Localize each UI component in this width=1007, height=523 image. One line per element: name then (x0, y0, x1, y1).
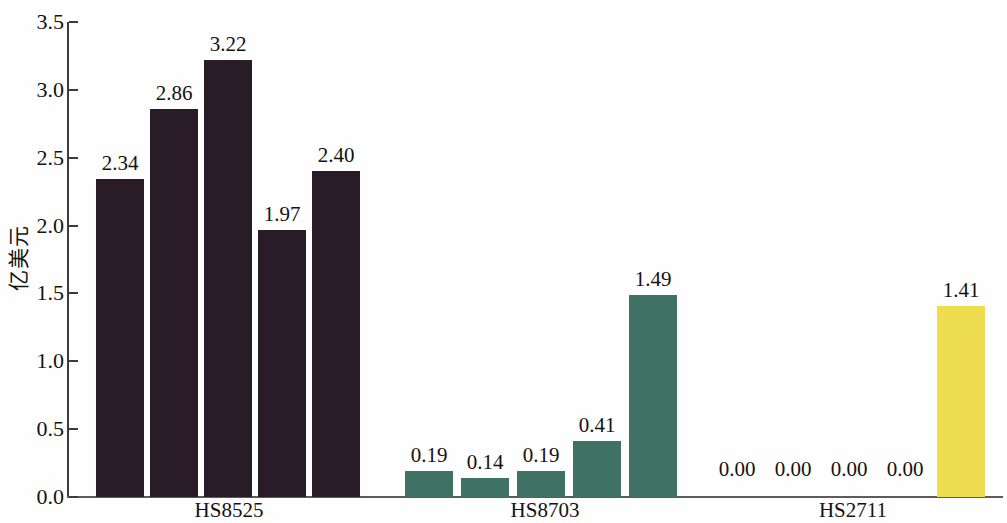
y-axis-tick-mark (69, 89, 78, 91)
bar-value-label: 1.97 (246, 204, 318, 225)
bar[interactable] (150, 109, 198, 497)
bar[interactable] (258, 230, 306, 497)
y-axis-tick-mark (69, 292, 78, 294)
bar-value-label: 2.86 (138, 83, 210, 104)
bar[interactable] (96, 179, 144, 497)
bar-value-label: 1.41 (925, 280, 997, 301)
bar-value-label: 3.22 (192, 34, 264, 55)
bar[interactable] (629, 295, 677, 497)
bar-chart: 亿美元 0.00.51.01.52.02.53.03.5 2.342.863.2… (0, 0, 1007, 523)
bar-value-label: 2.40 (300, 145, 372, 166)
y-axis-tick-mark (69, 225, 78, 227)
x-axis-group-label: HS8703 (465, 500, 625, 521)
y-axis-tick-mark (69, 157, 78, 159)
plot-area: 2.342.863.221.972.40HS85250.190.140.190.… (0, 0, 1007, 523)
x-axis-group-label: HS8525 (149, 500, 309, 521)
y-axis-tick-mark (69, 428, 78, 430)
bar-value-label: 2.34 (84, 153, 156, 174)
bar[interactable] (937, 306, 985, 497)
bar-value-label: 0.19 (505, 445, 577, 466)
y-axis-tick-mark (69, 360, 78, 362)
bar[interactable] (204, 60, 252, 497)
bar[interactable] (461, 478, 509, 497)
bar-value-label: 0.00 (869, 459, 941, 480)
x-axis-group-label: HS2711 (773, 500, 933, 521)
bar-value-label: 1.49 (617, 269, 689, 290)
bar[interactable] (573, 441, 621, 497)
bar-value-label: 0.41 (561, 415, 633, 436)
bar[interactable] (312, 171, 360, 497)
y-axis-tick-mark (69, 496, 78, 498)
bar[interactable] (405, 471, 453, 497)
bar[interactable] (517, 471, 565, 497)
y-axis-tick-mark (69, 21, 78, 23)
